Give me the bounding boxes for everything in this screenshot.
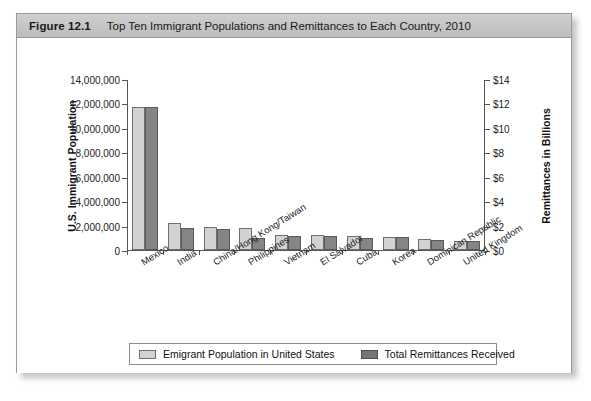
figure-title: Top Ten Immigrant Populations and Remitt…	[107, 20, 471, 32]
y-tick-right	[485, 178, 490, 179]
bar-group	[346, 79, 374, 250]
legend-swatch-population-icon	[139, 350, 156, 359]
y-tick-label-left: 0	[114, 246, 120, 257]
y-tick-label-left: 8,000,000	[76, 148, 121, 159]
y-tick-right	[485, 129, 490, 130]
y-tick-label-right: $4	[493, 197, 504, 208]
y-tick-left	[122, 202, 127, 203]
x-tick	[127, 251, 128, 255]
y-tick-left	[122, 80, 127, 81]
plot-region: 14,000,00012,000,00010,000,0008,000,0006…	[127, 80, 485, 251]
y-tick-label-right: $12	[493, 99, 510, 110]
bar-population	[383, 237, 396, 250]
bar-group	[167, 79, 195, 250]
legend-swatch-remittances-icon	[361, 350, 378, 359]
bar-group	[238, 79, 266, 250]
y-tick-label-left: 14,000,000	[70, 75, 120, 86]
figure-header: Figure 12.1 Top Ten Immigrant Population…	[17, 14, 571, 38]
axis-left	[127, 80, 128, 251]
y-tick-right	[485, 153, 490, 154]
y-axis-title-right-text: Remittances in Billions	[540, 108, 552, 224]
y-tick-left	[122, 178, 127, 179]
chart-legend: Emigrant Population in United States Tot…	[129, 343, 497, 365]
legend-label-population: Emigrant Population in United States	[163, 348, 335, 360]
y-tick-left	[122, 227, 127, 228]
legend-entry-population: Emigrant Population in United States	[139, 348, 335, 360]
bar-group	[131, 79, 159, 250]
y-tick-label-left: 6,000,000	[76, 172, 121, 183]
y-axis-title-left-text: U.S. Immigrant Population	[66, 100, 78, 231]
y-tick-label-right: $8	[493, 148, 504, 159]
y-tick-right	[485, 104, 490, 105]
legend-entry-remittances: Total Remittances Received	[361, 348, 515, 360]
bar-group	[417, 79, 445, 250]
y-tick-right	[485, 80, 490, 81]
y-tick-label-left: 12,000,000	[70, 99, 120, 110]
bar-population	[204, 227, 217, 250]
y-tick-label-right: $14	[493, 75, 510, 86]
figure-card: Figure 12.1 Top Ten Immigrant Population…	[16, 13, 572, 373]
bar-remittances	[145, 107, 158, 250]
bar-group	[310, 79, 338, 250]
figure-body: U.S. Immigrant Population Remittances in…	[17, 38, 571, 373]
y-tick-left	[122, 153, 127, 154]
y-tick-label-right: $6	[493, 172, 504, 183]
bar-population	[168, 223, 181, 250]
y-tick-label-left: 4,000,000	[76, 197, 121, 208]
y-tick-label-left: 2,000,000	[76, 221, 121, 232]
legend-label-remittances: Total Remittances Received	[385, 348, 515, 360]
y-tick-right	[485, 202, 490, 203]
bar-population	[418, 239, 431, 250]
y-axis-title-right: Remittances in Billions	[539, 80, 553, 251]
figure-number: Figure 12.1	[29, 20, 91, 32]
x-tick	[199, 251, 200, 255]
bar-group	[382, 79, 410, 250]
y-tick-left	[122, 129, 127, 130]
y-tick-label-right: $10	[493, 123, 510, 134]
bar-population	[132, 107, 145, 250]
y-tick-label-left: 10,000,000	[70, 123, 120, 134]
bar-group	[203, 79, 231, 250]
chart-area: U.S. Immigrant Population Remittances in…	[17, 38, 573, 338]
y-tick-left	[122, 104, 127, 105]
